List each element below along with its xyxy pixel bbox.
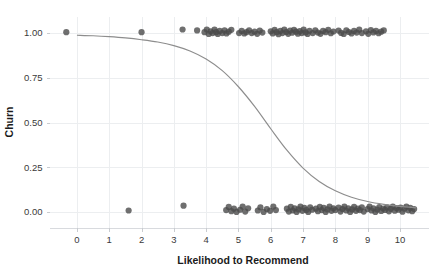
- x-axis-title: Likelihood to Recommend: [177, 254, 308, 266]
- scatter-point: [273, 207, 279, 213]
- x-tick-label: 7: [300, 234, 305, 245]
- x-tick-label: 8: [333, 234, 338, 245]
- y-tick-label: 1.00: [24, 27, 43, 38]
- scatter-point: [330, 28, 336, 34]
- x-tick-label: 10: [395, 234, 406, 245]
- x-tick-label: 5: [236, 234, 241, 245]
- chart-background: [0, 0, 431, 270]
- y-tick-label: 0.75: [24, 72, 43, 83]
- y-tick-label: 0.00: [24, 206, 43, 217]
- scatter-point: [259, 29, 265, 35]
- y-axis-title: Churn: [3, 107, 15, 138]
- scatter-point: [381, 27, 387, 33]
- scatter-point: [179, 26, 185, 32]
- x-tick-label: 3: [171, 234, 176, 245]
- x-tick-label: 6: [268, 234, 273, 245]
- y-tick-label: 0.25: [24, 162, 43, 173]
- scatter-point: [228, 27, 234, 33]
- scatter-point: [138, 29, 144, 35]
- x-tick-label: 0: [74, 234, 79, 245]
- scatter-point: [194, 27, 200, 33]
- scatter-point: [180, 203, 186, 209]
- scatter-point: [126, 207, 132, 213]
- chart-canvas: 0.000.250.500.751.00 012345678910 Likeli…: [0, 0, 431, 270]
- churn-logistic-scatter-chart: 0.000.250.500.751.00 012345678910 Likeli…: [0, 0, 431, 270]
- scatter-point: [63, 29, 69, 35]
- scatter-point: [245, 205, 251, 211]
- x-tick-label: 9: [365, 234, 370, 245]
- x-tick-label: 1: [107, 234, 112, 245]
- y-tick-label: 0.50: [24, 117, 43, 128]
- x-tick-label: 4: [203, 234, 208, 245]
- x-tick-label: 2: [139, 234, 144, 245]
